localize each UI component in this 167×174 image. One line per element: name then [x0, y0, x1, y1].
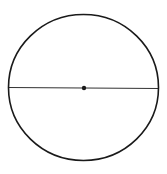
diagram-canvas: [0, 0, 167, 174]
circle-diagram: [0, 0, 167, 174]
center-point: [82, 86, 86, 90]
